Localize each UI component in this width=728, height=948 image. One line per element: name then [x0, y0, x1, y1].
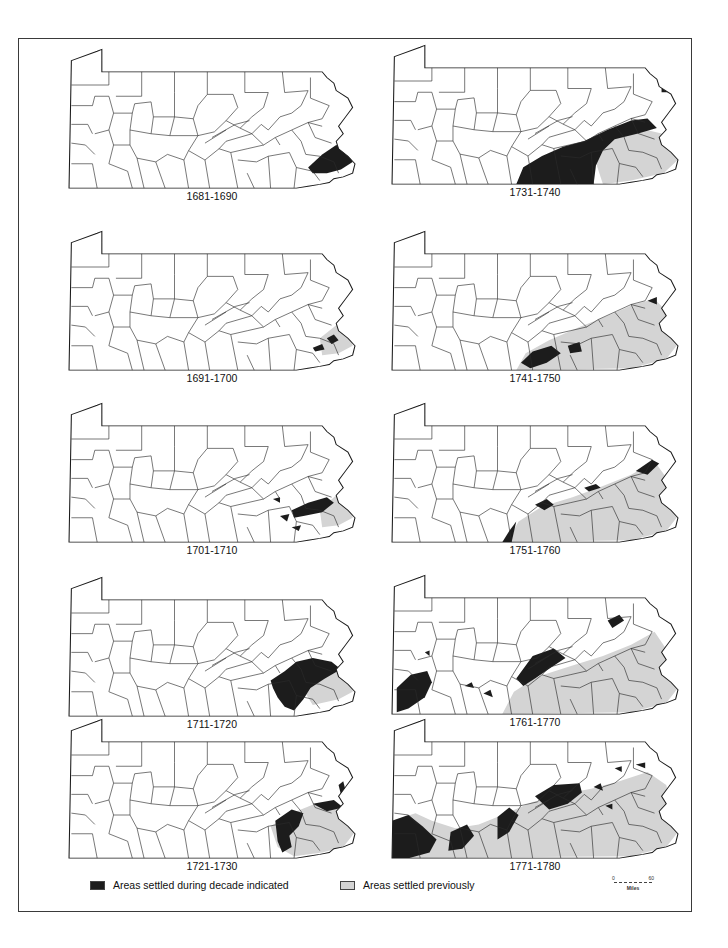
pennsylvania-map: [62, 568, 362, 718]
decade-label: 1751-1760: [385, 544, 685, 556]
map-panel-1681-1690: 1681-1690: [62, 40, 362, 215]
map-panel-1691-1700: 1691-1700: [62, 222, 362, 397]
map-panel-1771-1780: 1771-1780: [385, 710, 685, 885]
decade-label: 1771-1780: [385, 860, 685, 872]
pennsylvania-map: [385, 710, 685, 860]
map-panel-1751-1760: 1751-1760: [385, 394, 685, 569]
scale-line: [614, 882, 652, 883]
decade-label: 1681-1690: [62, 190, 362, 202]
scale-bar: 0 60 Miles: [612, 874, 654, 896]
pennsylvania-map: [385, 566, 685, 716]
pennsylvania-map: [62, 222, 362, 372]
pennsylvania-map: [385, 222, 685, 372]
map-panel-1741-1750: 1741-1750: [385, 222, 685, 397]
pennsylvania-map: [385, 36, 685, 186]
legend-item-during: Areas settled during decade indicated: [90, 878, 289, 898]
legend-item-previously: Areas settled previously: [340, 878, 474, 898]
legend-label-previously: Areas settled previously: [363, 879, 474, 891]
decade-label: 1691-1700: [62, 372, 362, 384]
map-panel-1721-1730: 1721-1730: [62, 710, 362, 885]
pennsylvania-map: [62, 710, 362, 860]
decade-label: 1721-1730: [62, 860, 362, 872]
pennsylvania-map: [62, 40, 362, 190]
black-swatch-icon: [90, 881, 105, 890]
gray-swatch-icon: [340, 881, 355, 890]
decade-label: 1731-1740: [385, 186, 685, 198]
scale-start: 0: [612, 875, 615, 881]
scale-unit: Miles: [612, 885, 654, 891]
decade-label: 1741-1750: [385, 372, 685, 384]
legend-label-during: Areas settled during decade indicated: [113, 879, 289, 891]
pennsylvania-map: [385, 394, 685, 544]
map-panel-1731-1740: 1731-1740: [385, 36, 685, 211]
map-panel-1701-1710: 1701-1710: [62, 394, 362, 569]
scale-end: 60: [648, 875, 654, 881]
decade-label: 1701-1710: [62, 544, 362, 556]
pennsylvania-map: [62, 394, 362, 544]
